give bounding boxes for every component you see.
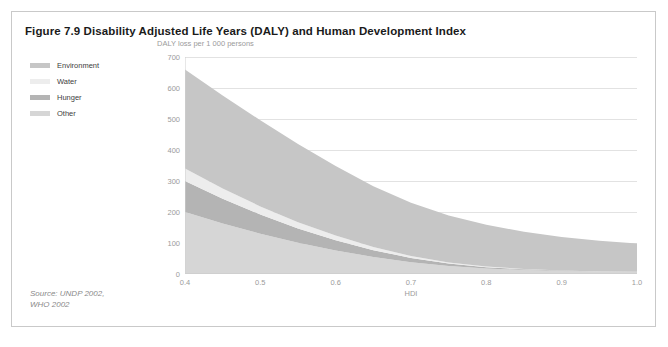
y-tick-label: 200 [167,208,180,217]
legend-swatch-other [30,111,50,116]
x-tick-label: 0.9 [556,278,566,287]
plot-region: 0100200300400500600700 0.40.50.60.70.80.… [185,57,637,274]
y-tick-label: 700 [167,53,180,62]
x-axis-title: HDI [405,289,418,298]
y-axis-title: DALY loss per 1 000 persons [157,39,254,48]
legend-item-environment: Environment [30,59,140,72]
stacked-area-chart [185,57,637,274]
x-tick-label: 1.0 [632,278,642,287]
y-tick-label: 100 [167,239,180,248]
source-note: Source: UNDP 2002, WHO 2002 [30,289,104,311]
legend-swatch-water [30,79,50,84]
y-tick-label: 500 [167,115,180,124]
legend-label-other: Other [57,110,76,118]
figure-title: Figure 7.9 Disability Adjusted Life Year… [25,25,466,37]
y-tick-label: 300 [167,177,180,186]
legend-item-hunger: Hunger [30,91,140,104]
legend-item-other: Other [30,107,140,120]
legend-item-water: Water [30,75,140,88]
y-tick-label: 600 [167,84,180,93]
x-tick-label: 0.7 [406,278,416,287]
x-tick-label: 0.8 [481,278,491,287]
x-tick-label: 0.6 [330,278,340,287]
legend-swatch-hunger [30,95,50,100]
legend-swatch-environment [30,63,50,68]
chart-legend: Environment Water Hunger Other [30,59,140,123]
x-tick-label: 0.5 [255,278,265,287]
x-tick-label: 0.4 [180,278,190,287]
figure-container: Figure 7.9 Disability Adjusted Life Year… [11,11,656,327]
chart-area: DALY loss per 1 000 persons 010020030040… [142,39,647,314]
legend-label-hunger: Hunger [57,94,82,102]
y-tick-label: 400 [167,146,180,155]
area-series [185,69,637,274]
legend-label-environment: Environment [57,62,99,70]
legend-label-water: Water [57,78,77,86]
